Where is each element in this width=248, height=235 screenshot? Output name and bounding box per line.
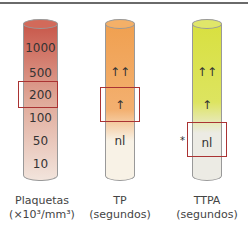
ttpa-label-up1: ↑ [192, 98, 222, 112]
ttpa-title: TTPA [167, 194, 247, 208]
platelet-unit: (×10³/mm³) [2, 208, 82, 222]
ttpa-label-up2: ↑↑ [192, 65, 222, 79]
top-rule [0, 2, 248, 4]
platelet-label-100: 100 [23, 111, 58, 125]
ttpa-unit: (segundos) [167, 208, 247, 222]
ttpa-asterisk: * [180, 135, 185, 146]
platelet-title: Plaquetas [2, 194, 82, 208]
tp-caption: TP (segundos) [80, 194, 160, 222]
tp-unit: (segundos) [80, 208, 160, 222]
platelet-threshold-box [18, 81, 58, 108]
ttpa-threshold-box [187, 122, 227, 157]
platelet-label-1000: 1000 [23, 41, 58, 55]
platelet-caption: Plaquetas (×10³/mm³) [2, 194, 82, 222]
tp-label-normal: nl [105, 134, 135, 148]
ttpa-caption: TTPA (segundos) [167, 194, 247, 222]
tp-label-up2: ↑↑ [105, 65, 135, 79]
platelet-label-10: 10 [23, 157, 58, 171]
platelet-label-50: 50 [23, 134, 58, 148]
tp-title: TP [80, 194, 160, 208]
platelet-label-500: 500 [23, 66, 58, 80]
tp-threshold-box [100, 87, 140, 122]
